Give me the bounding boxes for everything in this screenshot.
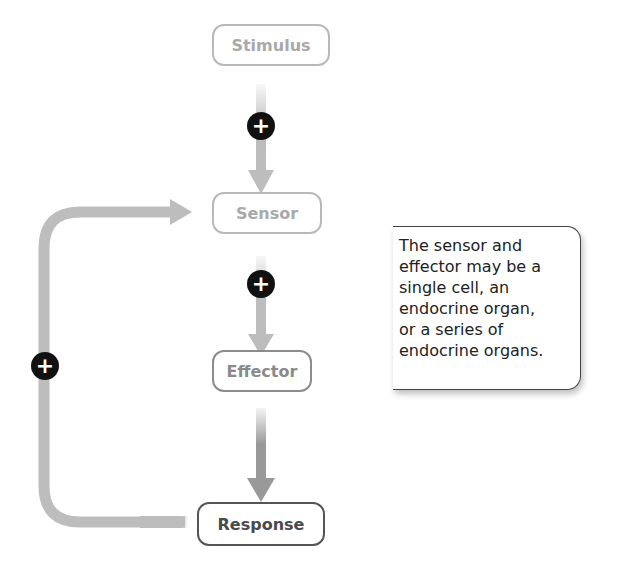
node-sensor: Sensor <box>212 192 322 234</box>
node-response: Response <box>197 502 325 546</box>
plus-sign-icon: + <box>31 352 59 380</box>
node-label: Response <box>218 515 305 534</box>
note-line: single cell, an <box>399 277 574 298</box>
node-label: Sensor <box>236 204 298 223</box>
node-label: Stimulus <box>231 36 310 55</box>
note-line: endocrine organs. <box>399 340 574 361</box>
node-stimulus: Stimulus <box>212 24 330 66</box>
arrow-effector-response <box>247 408 275 502</box>
explanatory-note: The sensor and effector may be a single … <box>393 226 581 390</box>
note-line: or a series of <box>399 319 574 340</box>
node-label: Effector <box>227 362 298 381</box>
note-line: The sensor and <box>399 235 574 256</box>
note-line: endocrine organ, <box>399 298 574 319</box>
node-effector: Effector <box>212 350 312 392</box>
plus-sign-icon: + <box>247 270 275 298</box>
plus-sign-icon: + <box>247 112 275 140</box>
note-line: effector may be a <box>399 256 574 277</box>
arrow-feedback-loop <box>44 199 192 528</box>
